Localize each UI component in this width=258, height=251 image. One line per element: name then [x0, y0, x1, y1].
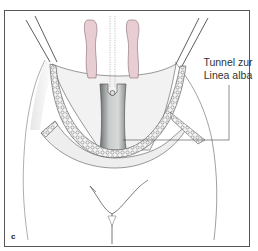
- callout-line-2: Linea alba: [202, 69, 254, 82]
- callout-label: Tunnel zur Linea alba: [202, 56, 254, 82]
- groin-lines: [90, 180, 148, 244]
- rectus-muscles: [84, 20, 139, 78]
- retractor-cords: [26, 16, 208, 66]
- anatomy-illustration: [0, 0, 258, 251]
- callout-line-1: Tunnel zur: [202, 56, 254, 69]
- panel-letter: c: [11, 232, 15, 241]
- umbilicus: [110, 91, 115, 96]
